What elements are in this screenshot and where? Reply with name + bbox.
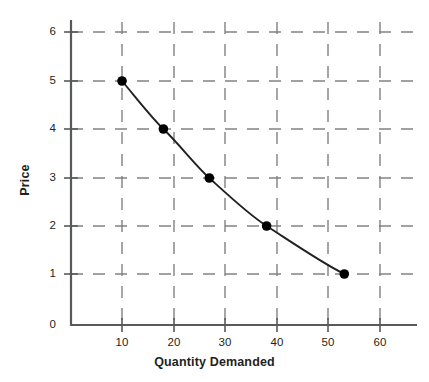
data-point-27-3 xyxy=(205,173,215,183)
data-point-53-1 xyxy=(340,269,350,279)
y-axis-title: Price xyxy=(18,154,32,206)
xtick-label-60: 60 xyxy=(365,336,395,348)
data-point-10-5 xyxy=(117,76,127,86)
ytick-label-6: 6 xyxy=(36,25,56,37)
xtick-label-50: 50 xyxy=(313,336,343,348)
xtick-label-30: 30 xyxy=(210,336,240,348)
ytick-label-2: 2 xyxy=(36,219,56,231)
data-point-18-4 xyxy=(159,124,169,134)
ytick-label-0: 0 xyxy=(36,318,56,330)
ytick-label-4: 4 xyxy=(36,122,56,134)
ytick-label-3: 3 xyxy=(36,171,56,183)
xtick-label-20: 20 xyxy=(159,336,189,348)
y-axis-title-wrapper: Price xyxy=(15,155,35,215)
xtick-label-10: 10 xyxy=(107,336,137,348)
ytick-label-1: 1 xyxy=(36,267,56,279)
data-point-38-2 xyxy=(262,221,272,231)
demand-curve-chart: 6 5 4 3 2 1 0 10 20 30 40 50 60 Quantity… xyxy=(0,0,429,382)
plot-area xyxy=(0,0,429,382)
ytick-label-5: 5 xyxy=(36,74,56,86)
x-axis-title: Quantity Demanded xyxy=(0,355,429,369)
vertical-gridlines xyxy=(122,22,380,325)
xtick-label-40: 40 xyxy=(262,336,292,348)
